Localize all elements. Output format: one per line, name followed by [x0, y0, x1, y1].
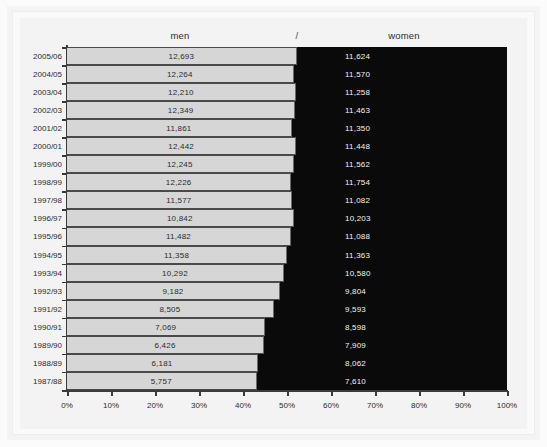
bar-segment-women: 11,258: [296, 83, 507, 101]
y-axis-label: 2000/01: [33, 142, 62, 151]
y-axis-tick: [62, 228, 67, 230]
bar-value-men: 5,757: [151, 376, 172, 385]
bar-value-men: 6,426: [155, 340, 176, 349]
bar-value-women: 9,593: [345, 304, 366, 313]
series-header-men: men: [67, 30, 293, 41]
bar-row: 12,21011,2582003/04: [67, 83, 507, 101]
bar-row: 12,24511,5621999/00: [67, 155, 507, 173]
x-axis-tick: [507, 391, 509, 396]
x-axis-label: 40%: [235, 401, 251, 410]
bar-value-men: 10,292: [162, 268, 188, 277]
bar-segment-women: 11,463: [295, 101, 507, 119]
bar-segment-men: 11,577: [67, 191, 292, 209]
y-axis-tick: [62, 155, 67, 157]
bar-value-women: 11,363: [345, 250, 370, 259]
y-axis-tick: [62, 173, 67, 175]
x-axis-tick: [287, 391, 289, 396]
bar-value-women: 7,610: [345, 376, 366, 385]
y-axis-tick: [62, 83, 67, 85]
bar-segment-women: 11,754: [291, 173, 507, 191]
bar-value-women: 11,088: [345, 232, 370, 241]
y-axis-tick: [62, 336, 67, 338]
bar-value-men: 9,182: [162, 286, 183, 295]
bar-segment-men: 11,861: [67, 119, 292, 137]
bar-segment-women: 7,610: [257, 372, 507, 390]
bar-row: 5,7577,6101987/88: [67, 372, 507, 390]
y-axis-tick: [62, 318, 67, 320]
x-axis-label: 90%: [455, 401, 471, 410]
bar-value-women: 10,580: [345, 268, 371, 277]
chart-page: men / women 12,69311,6242005/0612,26411,…: [0, 0, 547, 447]
y-axis-tick: [62, 209, 67, 211]
y-axis-tick: [62, 137, 67, 139]
y-axis-label: 2002/03: [33, 106, 62, 115]
bar-value-men: 11,482: [166, 232, 191, 241]
bar-segment-men: 12,693: [67, 47, 297, 65]
bar-segment-women: 9,804: [280, 282, 507, 300]
bar-value-men: 7,069: [155, 322, 176, 331]
bar-segment-men: 12,226: [67, 173, 291, 191]
bar-segment-men: 9,182: [67, 282, 280, 300]
bar-row: 10,29210,5801993/94: [67, 264, 507, 282]
bar-segment-women: 11,570: [294, 65, 507, 83]
x-axis-tick: [67, 391, 69, 396]
bar-row: 11,86111,3502001/02: [67, 119, 507, 137]
bar-segment-men: 6,181: [67, 354, 258, 372]
bar-segment-women: 11,082: [292, 191, 507, 209]
bar-value-women: 11,350: [345, 124, 370, 133]
bar-row: 8,5059,5931991/92: [67, 300, 507, 318]
bar-segment-men: 10,842: [67, 209, 294, 227]
bar-segment-women: 11,088: [291, 227, 507, 245]
x-axis-tick: [199, 391, 201, 396]
y-axis-label: 1993/94: [33, 268, 62, 277]
x-axis-tick: [375, 391, 377, 396]
bar-segment-women: 8,062: [258, 354, 507, 372]
bar-row: 10,84210,2031996/97: [67, 209, 507, 227]
bar-segment-men: 12,245: [67, 155, 294, 173]
y-axis-label: 1992/93: [33, 286, 62, 295]
y-axis-tick: [62, 282, 67, 284]
bar-row: 12,34911,4632002/03: [67, 101, 507, 119]
bar-value-women: 11,448: [345, 142, 370, 151]
x-axis-label: 30%: [191, 401, 207, 410]
y-axis-tick: [62, 65, 67, 67]
bar-row: 6,1818,0621988/89: [67, 354, 507, 372]
bar-value-women: 8,062: [345, 358, 366, 367]
bar-value-women: 11,082: [345, 196, 370, 205]
x-axis-tick: [463, 391, 465, 396]
bar-row: 12,22611,7541998/99: [67, 173, 507, 191]
bar-value-men: 12,349: [168, 106, 194, 115]
bar-value-women: 8,598: [345, 322, 366, 331]
y-axis-tick: [62, 372, 67, 374]
y-axis-label: 1998/99: [33, 178, 62, 187]
x-axis-label: 60%: [323, 401, 339, 410]
bar-row: 12,26411,5702004/05: [67, 65, 507, 83]
x-axis-tick: [243, 391, 245, 396]
plot-area: 12,69311,6242005/0612,26411,5702004/0512…: [67, 47, 507, 390]
y-axis-label: 1999/00: [33, 160, 62, 169]
bar-segment-men: 7,069: [67, 318, 265, 336]
y-axis-label: 1991/92: [33, 304, 62, 313]
bar-value-women: 11,258: [345, 88, 370, 97]
bar-segment-women: 7,909: [264, 336, 507, 354]
bar-segment-women: 9,593: [274, 300, 507, 318]
y-axis-tick: [62, 354, 67, 356]
x-axis-label: 80%: [411, 401, 427, 410]
bar-value-women: 11,624: [345, 52, 370, 61]
y-axis-label: 1997/98: [33, 196, 62, 205]
y-axis-label: 1994/95: [33, 250, 62, 259]
bar-segment-women: 8,598: [265, 318, 507, 336]
bar-value-women: 11,562: [345, 160, 370, 169]
bar-segment-women: 11,562: [294, 155, 507, 173]
y-axis-tick: [62, 246, 67, 248]
bar-value-women: 9,804: [345, 286, 366, 295]
y-axis-label: 1996/97: [33, 214, 62, 223]
bar-segment-men: 6,426: [67, 336, 264, 354]
stacked-bar-chart: men / women 12,69311,6242005/0612,26411,…: [0, 0, 547, 447]
y-axis-tick: [62, 300, 67, 302]
series-header-women: women: [301, 30, 507, 41]
bar-value-women: 11,754: [345, 178, 370, 187]
x-axis-label: 0%: [61, 401, 73, 410]
bar-value-men: 11,358: [164, 250, 189, 259]
y-axis-label: 2003/04: [33, 88, 62, 97]
